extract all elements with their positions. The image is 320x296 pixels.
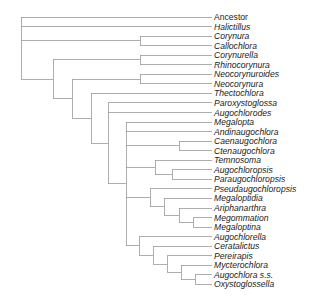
taxon-label: Augochloropsis — [214, 165, 273, 175]
taxon-label: Neocorynuroides — [214, 69, 279, 79]
taxon-label: Megalopta — [214, 117, 254, 127]
taxon-label: Thectochlora — [214, 88, 264, 98]
taxon-label: Ariphanarthra — [214, 203, 266, 213]
taxon-label: Paroxystoglossa — [214, 98, 277, 108]
taxon-label: Corynurella — [214, 50, 258, 60]
taxon-label: Augochlorella — [214, 232, 266, 242]
taxon-label: Augochlora s.s. — [214, 270, 273, 280]
taxon-label: Ceratalictus — [214, 241, 259, 251]
taxon-label: Ctenaugochlora — [214, 146, 275, 156]
taxon-label: Rhinocorynura — [214, 60, 270, 70]
taxon-label: Callochlora — [214, 41, 257, 51]
taxon-label: Andinaugochlora — [214, 127, 279, 137]
taxon-label: Pseudaugochloropsis — [214, 184, 296, 194]
taxon-label: Mycterochlora — [214, 260, 268, 270]
taxon-label: Megaloptidia — [214, 193, 263, 203]
taxon-label: Paraugochloropsis — [214, 174, 285, 184]
tree-branches — [21, 17, 212, 284]
taxon-label: Ancestor — [214, 12, 248, 22]
taxon-label: Megommation — [214, 213, 268, 223]
taxon-label: Caenaugochlora — [214, 136, 277, 146]
taxon-label: Megaloptina — [214, 222, 261, 232]
taxon-label: Neocorynura — [214, 79, 263, 89]
taxon-label: Corynura — [214, 31, 249, 41]
taxon-label: Augochlorodes — [214, 108, 271, 118]
taxon-label: Oxystoglossella — [214, 279, 274, 289]
taxon-label: Temnosoma — [214, 155, 261, 165]
taxon-label: Pereirapis — [214, 251, 253, 261]
taxon-label: Halictillus — [214, 22, 250, 32]
